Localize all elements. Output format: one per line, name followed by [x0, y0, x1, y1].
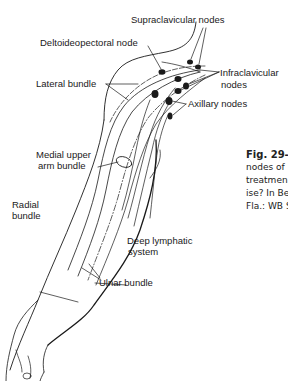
- infraclavicular-node-1: [175, 76, 182, 82]
- label-medial-upper-arm-bundle-line1: Medial upper: [36, 150, 91, 160]
- label-ulnar-bundle: Ulnar bundle: [99, 278, 153, 288]
- label-medial-upper-arm-bundle-line2: arm bundle: [38, 161, 86, 171]
- deltoideopectoral-node: [159, 69, 166, 75]
- lymph-nodes: [152, 60, 202, 120]
- axillary-node-1: [152, 90, 159, 98]
- caption-line: treatmen: [246, 174, 288, 187]
- caption-figure-number: Fig. 29-1: [246, 148, 288, 161]
- finger-line-1: [16, 350, 22, 372]
- label-infraclavicular-nodes-line1: Infraclavicular: [220, 68, 279, 78]
- label-deep-lymphatic-system-line1: Deep lymphatic: [127, 236, 192, 246]
- fingernail: [23, 373, 31, 379]
- axillary-node-3: [168, 113, 173, 120]
- label-lateral-bundle: Lateral bundle: [36, 79, 96, 89]
- label-axillary-nodes: Axillary nodes: [188, 99, 247, 109]
- caption-line: ise? In Be: [246, 187, 288, 200]
- caption-line: Fla.: WB S: [246, 200, 288, 213]
- supraclavicular-node-2: [195, 65, 201, 70]
- supraclavicular-node-1: [187, 60, 193, 65]
- label-radial-bundle-line1: Radial: [12, 200, 39, 210]
- label-supraclavicular-nodes: Supraclavicular nodes: [131, 15, 224, 25]
- caption-line: nodes of: [246, 161, 288, 174]
- hand-detail: [40, 345, 48, 381]
- lymphatic-arm-figure: Supraclavicular nodes Deltoideopectoral …: [0, 0, 288, 381]
- arm-lymphatic-drawing: [0, 0, 288, 381]
- figure-caption: Fig. 29-1 nodes of treatmen ise? In Be F…: [246, 148, 288, 213]
- label-infraclavicular-nodes-line2: nodes: [221, 80, 247, 90]
- label-deltoideopectoral-node: Deltoideopectoral node: [40, 38, 138, 48]
- medial-vessel-5: [122, 100, 150, 210]
- axillary-node-2: [166, 97, 173, 105]
- infraclavicular-node-3: [175, 88, 182, 94]
- medial-vessel-3: [134, 102, 170, 226]
- label-deep-lymphatic-system-line2: system: [128, 247, 158, 257]
- label-radial-bundle-line2: bundle: [12, 211, 41, 221]
